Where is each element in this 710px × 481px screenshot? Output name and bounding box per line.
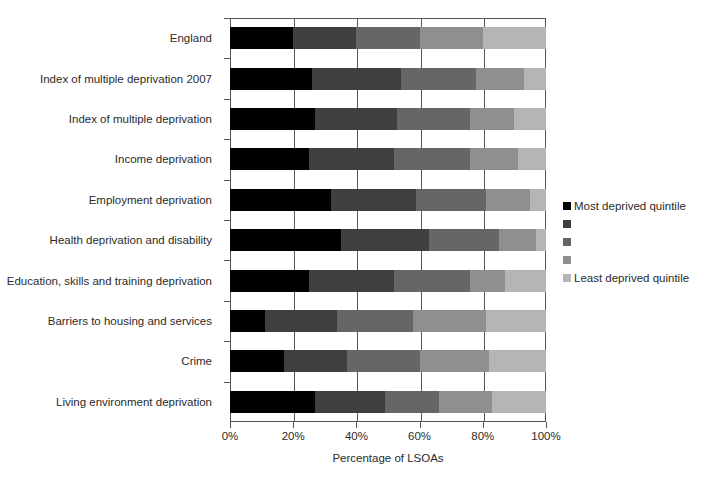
- y-axis-label: England: [170, 27, 212, 49]
- bar-row: [230, 27, 546, 49]
- y-axis-label: Index of multiple deprivation 2007: [40, 68, 212, 90]
- bar-segment-q2: [315, 391, 385, 413]
- bar-segment-q3: [385, 391, 439, 413]
- bar-segment-q5: [505, 270, 546, 292]
- legend-swatch-q1: [563, 202, 571, 210]
- legend-label: Least deprived quintile: [574, 272, 689, 284]
- bar-segment-q4: [470, 148, 517, 170]
- bar-segment-q5: [492, 391, 546, 413]
- bar-segment-q4: [413, 310, 486, 332]
- bar-segment-q1: [230, 391, 315, 413]
- bar-segment-q2: [312, 68, 400, 90]
- bar-row: [230, 270, 546, 292]
- bar-row: [230, 68, 546, 90]
- bar-row: [230, 391, 546, 413]
- bar-segment-q5: [518, 148, 546, 170]
- bar-segment-q3: [416, 189, 486, 211]
- stacked-bar-chart: EnglandIndex of multiple deprivation 200…: [0, 0, 710, 481]
- y-axis-label: Education, skills and training deprivati…: [7, 270, 212, 292]
- x-axis-tick-mark: [483, 422, 484, 428]
- x-axis-tick-mark: [230, 422, 231, 428]
- bar-segment-q1: [230, 148, 309, 170]
- bar-segment-q3: [401, 68, 477, 90]
- bar-segment-q1: [230, 108, 315, 130]
- bar-segment-q2: [331, 189, 416, 211]
- bar-segment-q2: [341, 229, 429, 251]
- legend-swatch-q2: [563, 220, 571, 228]
- x-axis-ticks: 0%20%40%60%80%100%: [230, 422, 546, 444]
- bar-segment-q2: [309, 270, 394, 292]
- legend-item: Most deprived quintile: [563, 197, 708, 215]
- bar-segment-q1: [230, 229, 341, 251]
- bar-segment-q4: [420, 350, 490, 372]
- bar-segment-q3: [356, 27, 419, 49]
- bar-segment-q4: [420, 27, 483, 49]
- x-axis-tick-mark: [420, 422, 421, 428]
- bar-segment-q3: [394, 270, 470, 292]
- bar-rows: [230, 18, 546, 422]
- x-axis-tick-mark: [356, 422, 357, 428]
- bar-segment-q4: [439, 391, 493, 413]
- legend-swatch-q4: [563, 256, 571, 264]
- x-axis-tick-label: 60%: [408, 430, 431, 442]
- bar-segment-q1: [230, 189, 331, 211]
- bar-segment-q4: [486, 189, 530, 211]
- bar-row: [230, 229, 546, 251]
- bar-segment-q2: [315, 108, 397, 130]
- bar-segment-q3: [347, 350, 420, 372]
- y-axis-label: Index of multiple deprivation: [69, 108, 212, 130]
- bar-segment-q3: [394, 148, 470, 170]
- legend-item: [563, 215, 708, 233]
- bar-segment-q1: [230, 68, 312, 90]
- chart-legend: Most deprived quintileLeast deprived qui…: [563, 197, 708, 287]
- bar-segment-q3: [397, 108, 470, 130]
- bar-segment-q2: [284, 350, 347, 372]
- legend-item: [563, 233, 708, 251]
- bar-segment-q1: [230, 350, 284, 372]
- bar-segment-q4: [499, 229, 537, 251]
- bar-segment-q5: [530, 189, 546, 211]
- bar-segment-q3: [429, 229, 499, 251]
- bar-segment-q1: [230, 310, 265, 332]
- legend-label: Most deprived quintile: [574, 200, 686, 212]
- bar-segment-q5: [489, 350, 546, 372]
- x-axis-tick-label: 80%: [471, 430, 494, 442]
- x-axis-tick-mark: [293, 422, 294, 428]
- bar-segment-q5: [486, 310, 546, 332]
- legend-item: [563, 251, 708, 269]
- y-axis-label: Income deprivation: [115, 148, 212, 170]
- y-axis-label: Health deprivation and disability: [50, 229, 212, 251]
- bar-segment-q5: [514, 108, 546, 130]
- bar-row: [230, 148, 546, 170]
- bar-segment-q4: [470, 270, 505, 292]
- x-axis-tick-mark: [546, 422, 547, 428]
- bar-segment-q5: [536, 229, 545, 251]
- bar-segment-q3: [337, 310, 413, 332]
- x-axis-tick-label: 100%: [531, 430, 560, 442]
- bar-segment-q5: [483, 27, 546, 49]
- bar-segment-q1: [230, 27, 293, 49]
- y-axis-label: Barriers to housing and services: [48, 310, 212, 332]
- x-axis-title: Percentage of LSOAs: [230, 452, 546, 464]
- x-axis-tick-label: 20%: [282, 430, 305, 442]
- bar-row: [230, 108, 546, 130]
- x-axis-tick-label: 40%: [345, 430, 368, 442]
- bar-segment-q4: [470, 108, 514, 130]
- y-axis-label: Employment deprivation: [89, 189, 212, 211]
- legend-swatch-q5: [563, 274, 571, 282]
- bar-segment-q1: [230, 270, 309, 292]
- bar-row: [230, 350, 546, 372]
- bar-segment-q2: [293, 27, 356, 49]
- bar-segment-q4: [476, 68, 523, 90]
- y-axis-category-labels: EnglandIndex of multiple deprivation 200…: [0, 18, 222, 422]
- bar-segment-q5: [524, 68, 546, 90]
- x-axis-tick-label: 0%: [222, 430, 239, 442]
- y-axis-label: Crime: [181, 350, 212, 372]
- legend-swatch-q3: [563, 238, 571, 246]
- legend-item: Least deprived quintile: [563, 269, 708, 287]
- bar-segment-q2: [265, 310, 338, 332]
- bar-row: [230, 310, 546, 332]
- y-axis-label: Living environment deprivation: [56, 391, 212, 413]
- bar-segment-q2: [309, 148, 394, 170]
- bar-row: [230, 189, 546, 211]
